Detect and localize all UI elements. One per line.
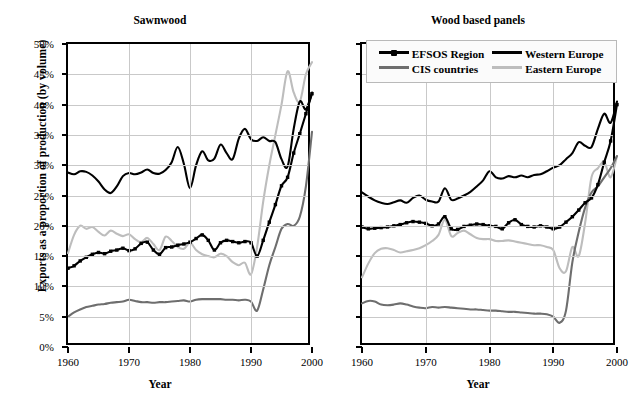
y-tick-label: 40% bbox=[20, 100, 54, 110]
plot-area-wood-based-panels: 19601970198019902000 bbox=[360, 42, 615, 345]
legend-swatch-western-europe bbox=[492, 47, 522, 58]
legend-label-efsos-region: EFSOS Region bbox=[412, 48, 485, 60]
y-tick-label: 20% bbox=[20, 221, 54, 231]
x-tick-label: 1980 bbox=[160, 356, 220, 368]
y-tick-mark bbox=[62, 316, 68, 318]
data-point-marker bbox=[225, 239, 228, 242]
data-point-marker bbox=[615, 103, 618, 106]
data-point-marker bbox=[450, 227, 453, 230]
data-point-marker bbox=[603, 160, 606, 163]
y-tick-mark bbox=[62, 255, 68, 257]
gridline-horizontal bbox=[362, 256, 613, 257]
data-point-marker bbox=[443, 215, 446, 218]
y-tick-mark bbox=[356, 195, 362, 197]
x-tick-label: 1990 bbox=[221, 356, 281, 368]
x-tick-label: 1960 bbox=[332, 356, 392, 368]
plot-area-sawnwood: 0%5%10%15%20%25%30%35%40%45%50%196019701… bbox=[66, 42, 310, 345]
chart-panel-sawnwood: Sawnwood 0%5%10%15%20%25%30%35%40%45%50%… bbox=[0, 0, 320, 405]
legend-item-cis-countries[interactable]: CIS countries bbox=[375, 61, 488, 76]
data-point-marker bbox=[72, 264, 75, 267]
x-tick-mark bbox=[311, 347, 313, 353]
data-point-marker bbox=[79, 259, 82, 262]
y-tick-mark bbox=[356, 43, 362, 45]
gridline-horizontal bbox=[68, 74, 308, 75]
gridline-horizontal bbox=[68, 165, 308, 166]
data-point-marker bbox=[182, 242, 185, 245]
data-point-marker bbox=[243, 240, 246, 243]
data-point-marker bbox=[237, 241, 240, 244]
data-point-marker bbox=[418, 220, 421, 223]
data-point-marker bbox=[66, 267, 69, 270]
y-tick-mark bbox=[356, 285, 362, 287]
gridline-vertical bbox=[490, 44, 491, 343]
x-axis-title-left: Year bbox=[0, 378, 320, 390]
gridline-horizontal bbox=[362, 165, 613, 166]
data-point-marker bbox=[152, 248, 155, 251]
y-tick-label: 5% bbox=[20, 312, 54, 322]
data-point-marker bbox=[231, 240, 234, 243]
gridline-vertical bbox=[190, 44, 191, 343]
data-point-marker bbox=[286, 176, 289, 179]
y-tick-label: 50% bbox=[20, 39, 54, 49]
y-tick-mark bbox=[356, 164, 362, 166]
y-tick-label: 15% bbox=[20, 251, 54, 261]
y-tick-mark bbox=[62, 43, 68, 45]
data-point-marker bbox=[262, 239, 265, 242]
data-point-marker bbox=[501, 227, 504, 230]
y-tick-mark bbox=[356, 225, 362, 227]
x-tick-mark bbox=[616, 347, 618, 353]
data-point-marker bbox=[201, 233, 204, 236]
data-point-marker bbox=[103, 252, 106, 255]
figure-root: Exports as a proportion of production (b… bbox=[0, 0, 636, 405]
legend-item-eastern-europe[interactable]: Eastern Europe bbox=[488, 61, 607, 76]
data-point-marker bbox=[310, 92, 313, 95]
x-tick-mark bbox=[128, 347, 130, 353]
x-tick-mark bbox=[361, 347, 363, 353]
y-tick-label: 0% bbox=[20, 342, 54, 352]
legend-swatch-efsos-region bbox=[379, 47, 409, 58]
y-tick-mark bbox=[356, 73, 362, 75]
gridline-vertical bbox=[553, 44, 554, 343]
x-tick-mark bbox=[189, 347, 191, 353]
gridline-horizontal bbox=[68, 226, 308, 227]
gridline-horizontal bbox=[68, 196, 308, 197]
data-point-marker bbox=[571, 215, 574, 218]
gridline-horizontal bbox=[68, 105, 308, 106]
data-point-marker bbox=[194, 237, 197, 240]
gridline-horizontal bbox=[68, 286, 308, 287]
data-point-marker bbox=[405, 221, 408, 224]
y-tick-mark bbox=[62, 164, 68, 166]
panel-title-sawnwood: Sawnwood bbox=[0, 14, 320, 26]
data-point-marker bbox=[507, 221, 510, 224]
data-point-marker bbox=[97, 251, 100, 254]
data-point-marker bbox=[590, 196, 593, 199]
data-point-marker bbox=[170, 245, 173, 248]
legend-item-western-europe[interactable]: Western Europe bbox=[488, 46, 607, 61]
legend-label-cis-countries: CIS countries bbox=[412, 63, 478, 75]
x-tick-label: 1970 bbox=[99, 356, 159, 368]
x-tick-mark bbox=[67, 347, 69, 353]
gridline-horizontal bbox=[362, 226, 613, 227]
gridline-vertical bbox=[251, 44, 252, 343]
legend: EFSOS Region Western Europe CIS countrie… bbox=[366, 40, 617, 83]
data-point-marker bbox=[564, 220, 567, 223]
gridline-horizontal bbox=[362, 317, 613, 318]
y-tick-label: 45% bbox=[20, 69, 54, 79]
data-point-marker bbox=[268, 220, 271, 223]
legend-label-western-europe: Western Europe bbox=[525, 48, 604, 60]
y-tick-mark bbox=[62, 73, 68, 75]
y-tick-mark bbox=[62, 134, 68, 136]
x-tick-label: 2000 bbox=[587, 356, 636, 368]
data-point-marker bbox=[274, 203, 277, 206]
y-tick-label: 25% bbox=[20, 191, 54, 201]
data-point-marker bbox=[109, 250, 112, 253]
gridline-horizontal bbox=[362, 286, 613, 287]
y-tick-mark bbox=[62, 104, 68, 106]
gridline-vertical bbox=[129, 44, 130, 343]
x-tick-mark bbox=[425, 347, 427, 353]
data-point-marker bbox=[456, 228, 459, 231]
legend-item-efsos-region[interactable]: EFSOS Region bbox=[375, 46, 488, 61]
x-tick-label: 1970 bbox=[396, 356, 456, 368]
data-point-marker bbox=[213, 248, 216, 251]
data-point-marker bbox=[121, 247, 124, 250]
